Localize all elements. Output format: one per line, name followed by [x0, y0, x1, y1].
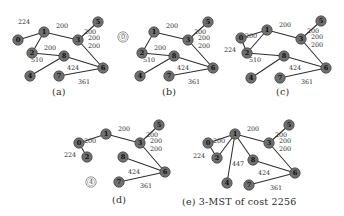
- edge-weight-label: 200: [150, 145, 162, 153]
- edge-weight-label: 424: [258, 169, 270, 177]
- graph-node-label: 3: [299, 35, 304, 43]
- edge-weight-label: 200: [150, 137, 162, 145]
- graph-c: 200510200200200424361224200012358476: [222, 2, 344, 92]
- edge-n7-n6: [169, 68, 213, 76]
- panel-c: 200510200200200424361224200012358476: [222, 2, 344, 92]
- graph-node-label: 3: [138, 139, 143, 147]
- edge-n7-n6: [59, 68, 103, 76]
- graph-node-label: 2: [215, 154, 220, 162]
- graph-node-label: 7: [57, 72, 62, 80]
- graph-node-label: 7: [117, 178, 122, 186]
- graph-d: 200200200200424361224200012358476: [60, 110, 185, 200]
- panel-e: 200200447200200424361224200012358476: [186, 110, 311, 200]
- graph-node-label: 1: [233, 130, 238, 138]
- graph-e: 200200447200200424361224200012358476: [186, 110, 311, 200]
- edge-weight-label: 224: [18, 18, 30, 26]
- graph-node-label: 8: [62, 52, 67, 60]
- edge-weight-label: 200: [279, 145, 291, 153]
- edge-weight-label: 200: [118, 125, 130, 133]
- graph-node-label: 5: [157, 121, 162, 129]
- panel-caption-a: (a): [52, 86, 66, 97]
- graph-node-label: 3: [186, 36, 191, 44]
- graph-node-label: 6: [101, 64, 106, 72]
- edge-weight-label: 200: [56, 22, 68, 30]
- graph-node-label: 2: [245, 49, 250, 57]
- graph-node-label: 8: [172, 52, 177, 60]
- edge-weight-label: 361: [301, 78, 313, 86]
- graph-node-label: 1: [265, 26, 270, 34]
- panel-caption-e: (e) 3-MST of cost 2256: [182, 196, 297, 207]
- graph-node-label: 8: [121, 153, 126, 161]
- edge-weight-label: 361: [140, 182, 152, 190]
- edge-weight-label: 361: [188, 78, 200, 86]
- edge-weight-label: 200: [279, 21, 291, 29]
- graph-node-label: 0: [77, 139, 82, 147]
- graph-node-label: 6: [163, 168, 168, 176]
- edge-weight-label: 200: [279, 137, 291, 145]
- edge-weight-label: 361: [270, 184, 282, 192]
- panel-a: 224510200200200200424361200012358476: [2, 0, 127, 90]
- graph-node-label: 1: [104, 130, 109, 138]
- graph-node-label: 3: [267, 139, 272, 147]
- edge-n7-n6: [119, 172, 165, 182]
- edge-weight-label: 200: [198, 42, 210, 50]
- edge-weight-label: 447: [232, 160, 244, 168]
- panel-caption-d: (d): [112, 194, 126, 205]
- graph-node-label: 8: [251, 156, 256, 164]
- graph-node-label: 2: [85, 153, 90, 161]
- edge-n7-n6: [280, 68, 326, 78]
- edge-weight-label: 200: [84, 137, 96, 145]
- graph-node-label: 4: [28, 72, 33, 80]
- edge-n1-n4: [227, 134, 235, 183]
- graph-node-label: 8: [282, 52, 287, 60]
- edge-weight-label: 224: [224, 46, 236, 54]
- graph-node-label: 4: [249, 74, 254, 82]
- edge-weight-label: 361: [78, 78, 90, 86]
- edge-weight-label: 200: [245, 32, 257, 40]
- graph-node-label: 4: [89, 178, 93, 186]
- edge-weight-label: 200: [154, 44, 166, 52]
- panel-caption-b: (b): [162, 86, 176, 97]
- edge-weight-label: 200: [166, 22, 178, 30]
- edge-weight-label: 224: [64, 151, 76, 159]
- graph-node-label: 6: [324, 64, 329, 72]
- graph-b: 510200200200200424361200012358476: [112, 0, 237, 90]
- graph-node-label: 7: [278, 74, 283, 82]
- edge-weight-label: 200: [88, 34, 100, 42]
- graph-node-label: 5: [96, 18, 101, 26]
- edge-weight-label: 200: [311, 41, 323, 49]
- graph-node-label: 1: [42, 28, 47, 36]
- graph-node-label: 0: [206, 139, 211, 147]
- figure-k-mst-construction: 224510200200200200424361200012358476(a)5…: [0, 0, 344, 216]
- graph-node-label: 5: [319, 17, 324, 25]
- graph-node-label: 2: [30, 49, 35, 57]
- edge-weight-label: 424: [177, 64, 189, 72]
- edge-weight-label: 200: [247, 125, 259, 133]
- edge-weight-label: 424: [128, 168, 140, 176]
- edge-weight-label: 224: [193, 152, 205, 160]
- graph-node-label: 5: [287, 121, 292, 129]
- graph-node-label: 4: [138, 72, 143, 80]
- edge-weight-label: 424: [67, 64, 79, 72]
- graph-node-label: 5: [206, 18, 211, 26]
- graph-node-label: 6: [293, 169, 298, 177]
- panel-b: 510200200200200424361200012358476: [112, 0, 237, 90]
- graph-node-label: 0: [121, 33, 125, 41]
- edge-weight-label: 200: [311, 33, 323, 41]
- edge-weight-label: 200: [213, 137, 225, 145]
- graph-node-label: 0: [239, 34, 244, 42]
- graph-a: 224510200200200200424361200012358476: [2, 0, 127, 90]
- panel-caption-c: (c): [276, 86, 289, 97]
- edge-weight-label: 200: [44, 44, 56, 52]
- panel-d: 200200200200424361224200012358476: [60, 110, 185, 200]
- graph-node-label: 0: [16, 36, 21, 44]
- edge-weight-label: 510: [249, 56, 261, 64]
- graph-node-label: 2: [140, 49, 145, 57]
- graph-node-label: 3: [76, 36, 81, 44]
- graph-node-label: 1: [152, 28, 157, 36]
- graph-node-label: 6: [211, 64, 216, 72]
- edge-weight-label: 424: [289, 64, 301, 72]
- graph-node-label: 7: [247, 181, 252, 189]
- edge-weight-label: 200: [88, 42, 100, 50]
- graph-node-label: 7: [167, 72, 172, 80]
